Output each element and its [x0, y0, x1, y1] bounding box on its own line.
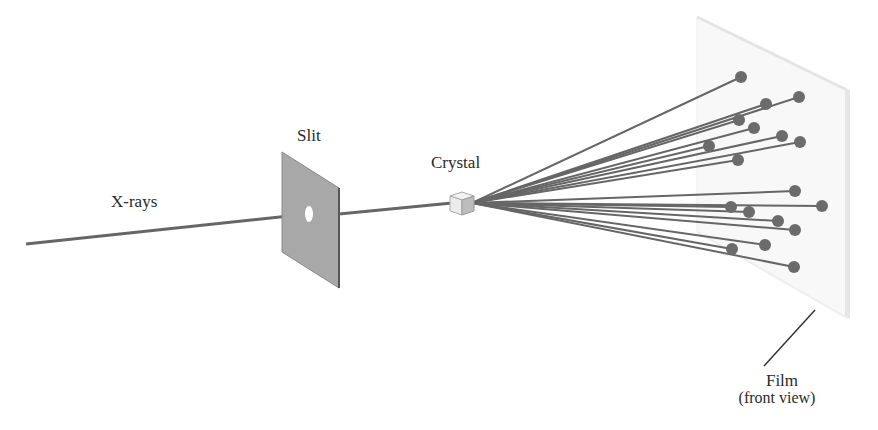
- diffraction-spot: [788, 261, 800, 273]
- diffraction-spot: [703, 140, 715, 152]
- film-note-label: (front view): [712, 389, 842, 407]
- diffraction-spot: [816, 200, 828, 212]
- film-leader-line: [764, 310, 815, 366]
- diffraction-spot: [776, 130, 788, 142]
- diffraction-spot: [735, 71, 747, 83]
- crystal-cube: [450, 192, 474, 215]
- slit-plate: [282, 152, 339, 288]
- diffraction-spot: [748, 122, 760, 134]
- slit-opening: [305, 206, 313, 222]
- diffraction-spot: [789, 224, 801, 236]
- xray-beam-incoming: [26, 214, 308, 244]
- diffraction-spot: [760, 98, 772, 110]
- diffracted-ray: [472, 146, 709, 203]
- xray-beam-collimated: [339, 203, 452, 214]
- film-plate: [697, 17, 850, 318]
- xray-diffraction-diagram: X-rays Slit Crystal Film (front view): [0, 0, 878, 430]
- xrays-label: X-rays: [111, 193, 157, 211]
- slit-label: Slit: [297, 127, 321, 145]
- diffraction-spot: [726, 243, 738, 255]
- diffraction-spot: [732, 154, 744, 166]
- diffraction-spot: [772, 215, 784, 227]
- diffraction-spot: [743, 206, 755, 218]
- diffraction-spot: [793, 91, 805, 103]
- diffraction-spot: [725, 201, 737, 213]
- diffraction-spot: [789, 185, 801, 197]
- diagram-canvas: [0, 0, 878, 430]
- diffraction-spot: [733, 114, 745, 126]
- film-label: Film: [742, 372, 822, 390]
- crystal-label: Crystal: [431, 154, 480, 172]
- diffraction-spot: [759, 239, 771, 251]
- diffraction-spot: [794, 136, 806, 148]
